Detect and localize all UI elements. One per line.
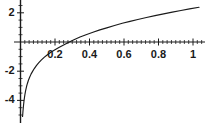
data-series-curve [23, 7, 199, 116]
x-tick-label: 0.4 [76, 48, 104, 60]
plot-canvas [0, 0, 205, 129]
y-tick-label: -2 [0, 64, 15, 76]
x-tick-label: 1 [179, 48, 205, 60]
axis-group [14, 0, 205, 123]
x-tick-label: 0.6 [110, 48, 138, 60]
y-tick-label: -4 [0, 93, 15, 105]
x-tick-label: 0.8 [145, 48, 173, 60]
x-tick-label: 0.2 [41, 48, 69, 60]
plot-figure: 0.20.40.60.81 2-2-4 [0, 0, 205, 129]
y-tick-label: 2 [0, 6, 15, 18]
